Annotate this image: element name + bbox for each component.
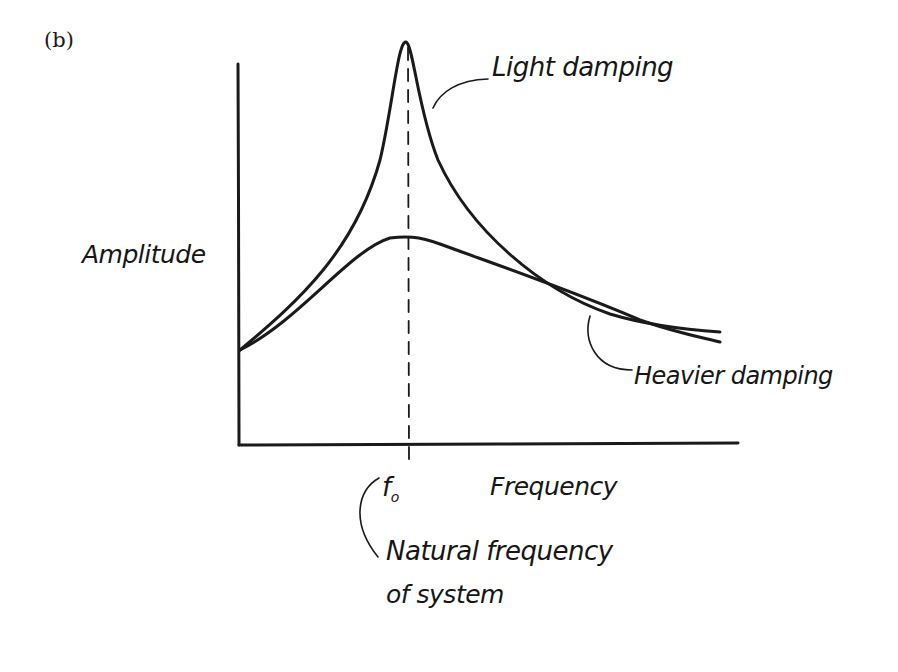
light-damping-leader <box>433 79 488 108</box>
light-damping-curve <box>240 42 720 350</box>
heavier-damping-curve <box>240 237 720 350</box>
x-axis <box>239 443 738 445</box>
resonance-diagram: (b) Amplitude Light damping Heavier damp… <box>0 0 898 672</box>
f0-label: fo <box>382 472 399 505</box>
heavier-damping-leader <box>588 316 632 370</box>
f0-subscript: o <box>391 489 399 505</box>
y-axis <box>238 64 239 445</box>
f0-symbol: f <box>382 472 391 502</box>
f0-annotation-bracket <box>360 478 379 557</box>
natural-frequency-label: Natural frequency <box>386 536 613 566</box>
x-axis-label: Frequency <box>490 472 617 501</box>
f0-dashed-line <box>408 48 409 460</box>
heavier-damping-label: Heavier damping <box>634 362 833 390</box>
y-axis-label: Amplitude <box>82 240 206 269</box>
of-system-label: of system <box>386 580 504 609</box>
panel-label: (b) <box>44 28 74 52</box>
light-damping-label: Light damping <box>492 52 673 82</box>
resonance-plot <box>0 0 898 672</box>
